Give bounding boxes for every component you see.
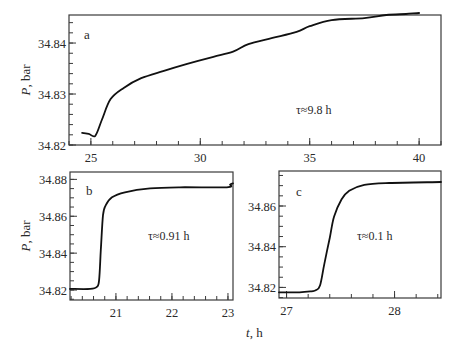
panel-b-chart: 21222334.8234.8434.8634.88 b τ≈0.91 h P,… xyxy=(18,172,234,320)
panel-b-annotation: τ≈0.91 h xyxy=(148,229,189,243)
svg-text:40: 40 xyxy=(413,151,426,165)
svg-text:28: 28 xyxy=(388,304,401,318)
panel-a-ticks xyxy=(69,23,441,145)
svg-text:22: 22 xyxy=(166,306,179,320)
svg-text:34.86: 34.86 xyxy=(39,210,67,224)
panel-c-chart: 272834.8234.8434.86 c τ≈0.1 h xyxy=(248,171,441,318)
svg-text:34.82: 34.82 xyxy=(38,139,66,153)
svg-text:34.82: 34.82 xyxy=(248,281,276,295)
svg-text:27: 27 xyxy=(280,304,293,318)
panel-b-label: b xyxy=(86,183,93,198)
panel-a-chart: 2530354034.8234.8334.84 a τ≈9.8 h P, bar xyxy=(18,13,441,165)
panel-a-tick-labels: 2530354034.8234.8334.84 xyxy=(38,37,425,165)
svg-text:34.84: 34.84 xyxy=(39,247,68,261)
svg-text:21: 21 xyxy=(110,306,123,320)
panel-c-annotation: τ≈0.1 h xyxy=(357,229,392,243)
svg-text:34.83: 34.83 xyxy=(38,88,66,102)
svg-text:34.84: 34.84 xyxy=(38,37,67,51)
svg-text:34.82: 34.82 xyxy=(39,284,67,298)
panel-a-curve xyxy=(82,13,419,137)
panel-b-y-axis-label: P, bar xyxy=(18,220,33,253)
panel-c-tick-labels: 272834.8234.8434.86 xyxy=(248,200,401,318)
panel-b-tick-labels: 21222334.8234.8434.8634.88 xyxy=(39,173,234,320)
panel-a-y-axis-label: P, bar xyxy=(18,64,33,97)
figure: 2530354034.8234.8334.84 a τ≈9.8 h P, bar… xyxy=(0,0,460,354)
panel-a-label: a xyxy=(84,27,90,42)
svg-text:23: 23 xyxy=(222,306,235,320)
panel-a-annotation: τ≈9.8 h xyxy=(296,103,331,117)
svg-text:25: 25 xyxy=(85,151,98,165)
svg-text:34.86: 34.86 xyxy=(248,200,276,214)
svg-text:30: 30 xyxy=(194,151,207,165)
panel-a-frame xyxy=(69,15,441,145)
svg-text:34.84: 34.84 xyxy=(248,240,277,254)
x-axis-label: t, h xyxy=(246,325,263,340)
svg-text:34.88: 34.88 xyxy=(39,173,67,187)
svg-text:35: 35 xyxy=(303,151,316,165)
panel-c-label: c xyxy=(296,184,302,199)
